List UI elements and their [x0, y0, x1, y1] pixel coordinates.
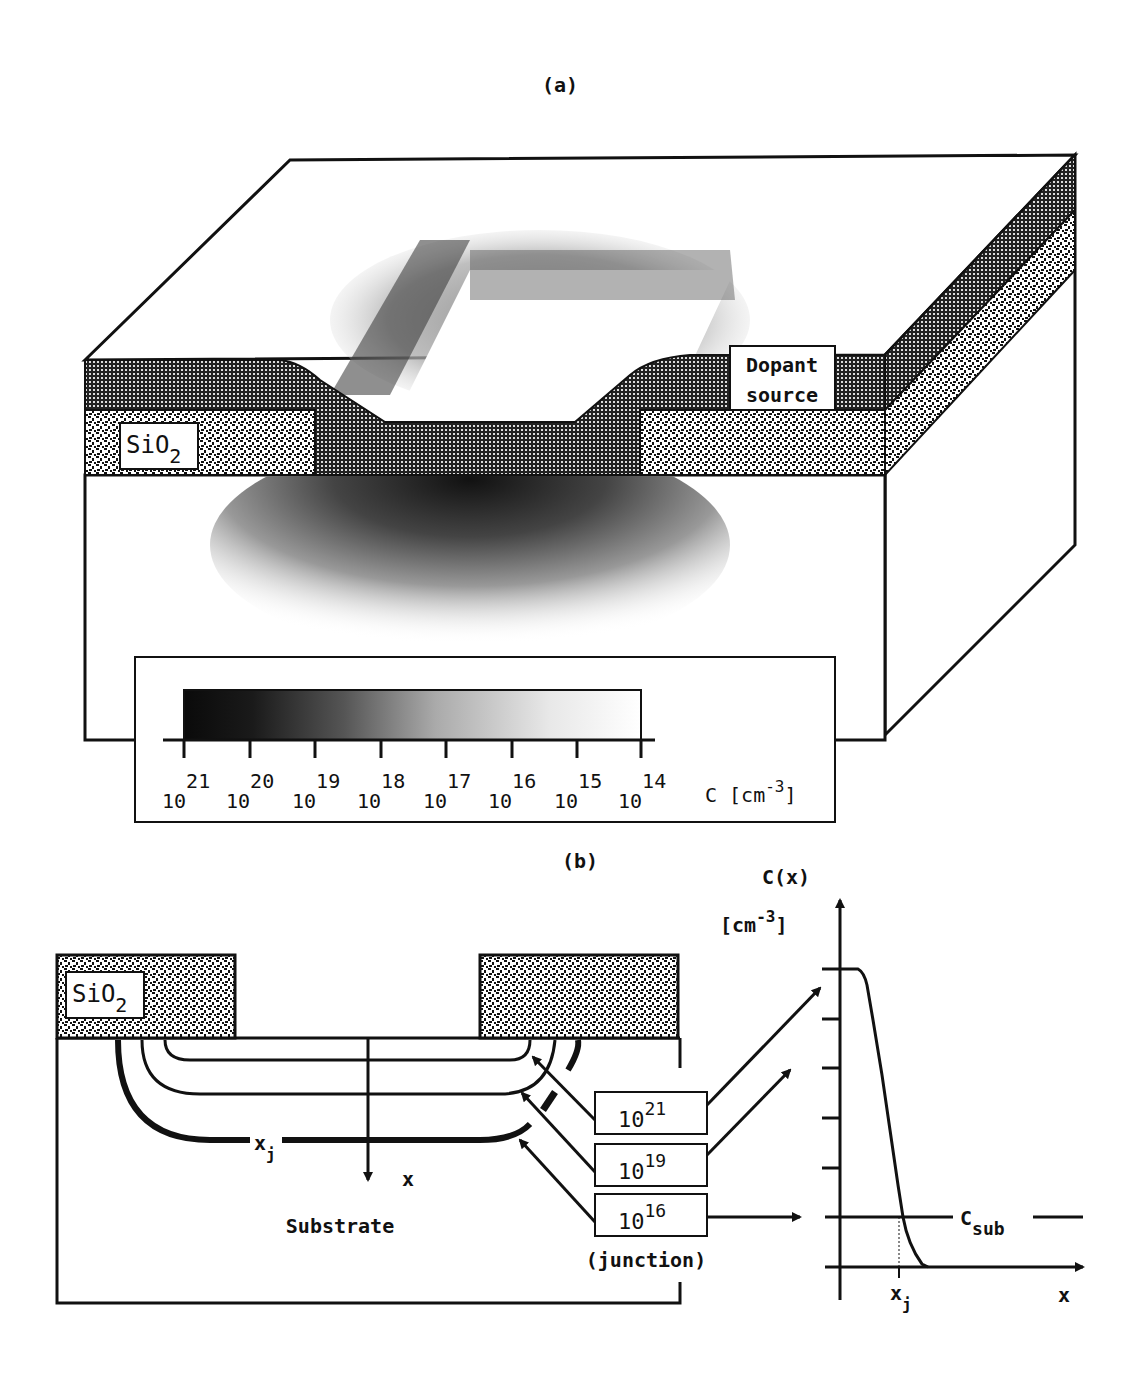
csub-label: Csub — [960, 1206, 1005, 1239]
plot-y-unit: [cm-3] — [720, 907, 787, 937]
diffusion-figure: (a) SiO2 Dopant — [0, 0, 1137, 1392]
sio2-right — [640, 410, 885, 475]
concentration-scale-legend: 1021 1020 1019 1018 1017 1016 1015 1014 … — [135, 657, 835, 822]
svg-text:Dopant: Dopant — [746, 353, 818, 377]
junction-label: (junction) — [586, 1248, 706, 1272]
scale-gradient-bar — [184, 690, 641, 740]
dopant-source-label: Dopant source — [730, 346, 835, 410]
panel-b-label: (b) — [562, 849, 598, 873]
concentration-profile-plot: C(x) [cm-3] Csub xj x — [720, 865, 1083, 1314]
panel-b: (b) SiO2 x xj Substrate 1021 1019 10 — [57, 849, 1083, 1314]
sio2-block-right — [480, 955, 678, 1038]
sio2-label-b: SiO2 — [66, 972, 144, 1018]
panel-a-label: (a) — [542, 73, 578, 97]
plot-xj-label: xj — [890, 1281, 912, 1314]
sio2-label-a: SiO2 — [120, 423, 198, 469]
contour-1e21 — [165, 1040, 530, 1060]
profile-curve — [840, 969, 928, 1267]
contour-1e19 — [142, 1040, 555, 1094]
panel-a: (a) SiO2 Dopant — [85, 73, 1075, 822]
substrate-label: Substrate — [286, 1214, 394, 1238]
svg-text:source: source — [746, 383, 818, 407]
contour-junction — [118, 1040, 530, 1140]
plot-y-label: C(x) — [762, 865, 810, 889]
depth-axis-label: x — [402, 1167, 414, 1191]
plot-x-label: x — [1058, 1283, 1070, 1307]
xj-label-profile: xj — [254, 1131, 276, 1164]
contour-labels: 1021 1019 1016 (junction) — [586, 1092, 707, 1272]
